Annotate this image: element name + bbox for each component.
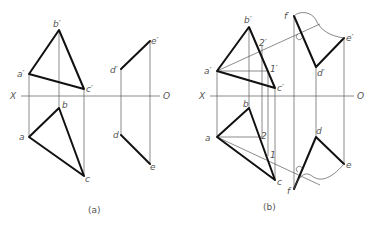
- label-e-prime: e′: [346, 33, 354, 43]
- label-a-prime: a′: [17, 69, 25, 79]
- figure-b: X O b′ a′ c′ 2′ 1′: [198, 11, 364, 212]
- line-de-front: [121, 41, 150, 69]
- label-c-prime: c′: [86, 84, 93, 94]
- plane-fde-front: [294, 16, 344, 67]
- label-b-prime: b′: [244, 15, 252, 25]
- label-d: d: [113, 130, 119, 140]
- label-e: e: [346, 160, 352, 170]
- label-f-prime: f′: [284, 11, 289, 21]
- triangle-front-view: [29, 30, 84, 89]
- line-de-top: [121, 135, 150, 164]
- label-b-prime: b′: [53, 19, 61, 29]
- orthographic-projection-diagram: X O b′ a′ c′ b a c d′ e′ d e (a) X O: [0, 0, 375, 226]
- label-d-prime: d′: [317, 68, 325, 78]
- label-1: 1: [270, 150, 276, 160]
- label-a-prime: a′: [204, 66, 212, 76]
- axis-label-o: O: [357, 91, 364, 101]
- label-e-prime: e′: [151, 36, 159, 46]
- label-2: 2: [261, 131, 267, 141]
- aux-line-a-prime-2-prime: [217, 24, 320, 71]
- triangle-top-view: [29, 108, 84, 176]
- axis-label-o: O: [163, 91, 170, 101]
- label-2-prime: 2′: [259, 38, 267, 48]
- label-a: a: [205, 133, 211, 143]
- caption-a: (a): [88, 205, 101, 215]
- label-b: b: [62, 100, 68, 110]
- label-a: a: [19, 132, 25, 142]
- axis-label-x: X: [9, 91, 17, 101]
- axis-label-x: X: [198, 91, 206, 101]
- caption-b: (b): [263, 202, 276, 212]
- label-1-prime: 1′: [270, 64, 278, 74]
- label-e: e: [150, 162, 156, 172]
- label-c: c: [85, 174, 90, 184]
- label-b: b: [243, 99, 249, 109]
- label-c-prime: c′: [277, 83, 284, 93]
- figure-a: X O b′ a′ c′ b a c d′ e′ d e (a): [9, 19, 170, 215]
- label-f: f: [287, 186, 292, 196]
- label-d-prime: d′: [110, 65, 118, 75]
- plane-fde-top: [294, 137, 344, 189]
- label-d: d: [316, 126, 322, 136]
- triangle-top-view: [217, 108, 275, 180]
- label-c: c: [277, 177, 282, 187]
